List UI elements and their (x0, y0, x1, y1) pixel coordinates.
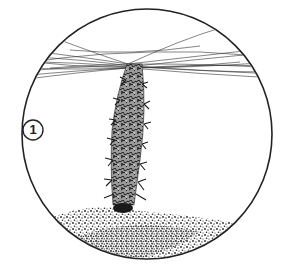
scene (20, 28, 280, 271)
organism-column (104, 64, 151, 213)
illustration-figure: 1 (0, 0, 286, 271)
figure-label-number: 1 (23, 120, 43, 140)
web-strands (20, 28, 275, 80)
